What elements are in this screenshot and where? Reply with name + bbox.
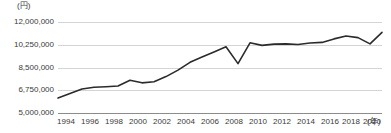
plot-area	[58, 22, 382, 113]
income-line-chart: (円) 12,000,000 10,250,000 8,500,000 6,75…	[0, 0, 391, 133]
x-axis-unit-label: (年)	[367, 117, 380, 126]
x-tick-label-1996: 1996	[81, 117, 99, 126]
x-axis-line	[58, 113, 382, 114]
x-tick-label-2018: 2018	[342, 117, 360, 126]
x-tick-label-1998: 1998	[105, 117, 123, 126]
y-axis-unit-label: (円)	[17, 1, 30, 11]
x-tick-label-2012: 2012	[273, 117, 291, 126]
y-tick-label-6750000: 6,750,000	[0, 86, 54, 94]
y-tick-label-10250000: 10,250,000	[0, 41, 54, 49]
x-tick-label-2010: 2010	[249, 117, 267, 126]
x-tick-label-2016: 2016	[321, 117, 339, 126]
x-tick-label-1994: 1994	[57, 117, 75, 126]
y-tick-label-12000000: 12,000,000	[0, 18, 54, 26]
y-tick-label-5000000: 5,000,000	[0, 109, 54, 117]
x-tick-label-2006: 2006	[201, 117, 219, 126]
x-tick-label-2004: 2004	[177, 117, 195, 126]
series-line	[58, 32, 382, 98]
x-tick-label-2000: 2000	[129, 117, 147, 126]
x-tick-label-2002: 2002	[153, 117, 171, 126]
series-svg	[58, 22, 382, 113]
y-tick-label-8500000: 8,500,000	[0, 64, 54, 72]
x-tick-label-2008: 2008	[225, 117, 243, 126]
x-tick-label-2014: 2014	[297, 117, 315, 126]
